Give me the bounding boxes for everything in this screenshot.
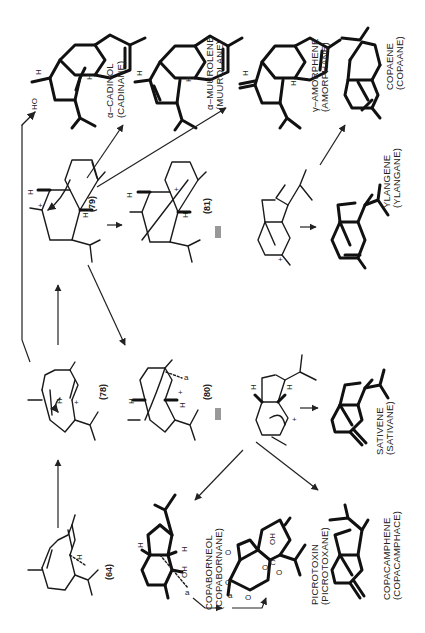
structure-copaborneol: H H OH a (136, 495, 190, 598)
picrotoxin-bond-a-label: a (228, 591, 233, 600)
structure-81: H H + (125, 162, 206, 262)
arrow-to-copaborneol (195, 450, 243, 500)
biosynthesis-scheme: HO H H α–CADINOL (CADINANE) H H α–MUUROL… (0, 0, 425, 633)
amorphene-h1-label: H (241, 70, 250, 76)
picrotoxin-o1-label: O (225, 548, 231, 557)
cadinol-h1-label: H (34, 69, 43, 75)
structure-alpha-cadinol: HO H H (22, 35, 145, 128)
structure-ylangene-cation: + (258, 170, 312, 265)
ylangene-skeleton: (YLANGANE) (391, 148, 402, 208)
structure-picrotoxin: O O O O C O OH a (225, 518, 305, 602)
c81-charge: + (174, 185, 179, 194)
muurolene-h1-label: H (135, 70, 144, 76)
arrow-ylangene-to-copaene (320, 125, 345, 165)
c79-h1-label: H (26, 189, 35, 195)
copaborneol-skeleton: (COPABORNANE) (213, 528, 224, 610)
c78-charge: + (74, 398, 79, 407)
structure-copacamphene (330, 505, 368, 598)
cadinol-ho-label: HO (30, 98, 39, 110)
muurolene-skeleton: (MUUROLANE) (214, 41, 225, 110)
c64-h-label: H (75, 554, 84, 560)
picrotoxin-c-label: C (270, 558, 276, 567)
equivalence-sign-1 (216, 226, 220, 238)
equivalence-sign-2 (216, 408, 220, 420)
sativene-skeleton: (SATIVANE) (384, 401, 395, 455)
sativene-cation-charge: + (292, 415, 297, 424)
structure-64: H (28, 515, 98, 595)
c80-charge: + (178, 388, 183, 397)
compound-number-80: (80) (202, 384, 212, 400)
copaene-skeleton: (COPAANE) (394, 36, 405, 90)
structure-sativene-cation: H H + (249, 355, 316, 445)
picrotoxin-o4-label: O (262, 563, 268, 572)
picrotoxin-o5-label: O (276, 568, 282, 577)
picrotoxin-o2-label: O (225, 578, 231, 587)
arrow-78-to-cadinol (22, 125, 30, 362)
picrotoxin-skeleton: (PICROTOXANE) (319, 527, 330, 605)
arrow-to-copacamphene (256, 442, 318, 490)
copaborneol-bond-a-label: a (185, 588, 190, 597)
arrow-79-to-cadinol (87, 125, 123, 178)
arrow-79-to-80 (88, 265, 125, 345)
cadinol-name: α–CADINOL (104, 63, 115, 118)
cadinol-h2-label: H (85, 74, 94, 80)
structure-alpha-muurolene: H H (135, 36, 242, 130)
c78-h-label: H (55, 398, 64, 404)
picrotoxin-oh-label: OH (268, 533, 277, 545)
ylangene-cation-charge: + (278, 255, 283, 264)
sativene-cation-h2-label: H (285, 384, 294, 390)
c81-h1-label: H (125, 192, 134, 198)
compound-number-81: (81) (202, 198, 212, 214)
compound-number-79: (79) (87, 196, 97, 212)
amorphene-skeleton: (AMORPHANE) (319, 42, 330, 112)
compound-number-78: (78) (98, 384, 108, 400)
c80-h2-label: H (178, 402, 187, 408)
arrow-79-to-muurolene (97, 108, 226, 187)
amorphene-h2-label: H (289, 80, 298, 86)
sativene-cation-h1-label: H (249, 384, 258, 390)
c80-h1-label: H (127, 398, 136, 404)
copaborneol-h1-label: H (136, 542, 145, 548)
c79-charge: + (38, 201, 43, 210)
structure-80: H H + a (127, 360, 198, 440)
c80-bond-a-label: a (184, 373, 189, 382)
copaborneol-h2-label: H (180, 546, 189, 552)
compound-number-64: (64) (104, 564, 114, 580)
copacamphene-skeleton: (COPACAMPHACE) (391, 511, 402, 600)
structure-copaene (342, 28, 380, 118)
c81-h2-label: H (181, 212, 190, 218)
structure-78: H + (28, 362, 98, 440)
structure-ylangene (332, 185, 388, 268)
copaborneol-oh-label: OH (180, 566, 189, 578)
muurolene-h2-label: H (184, 76, 193, 82)
cadinol-skeleton: (CADINANE) (115, 61, 126, 118)
picrotoxin-o3-label: O (245, 593, 251, 602)
